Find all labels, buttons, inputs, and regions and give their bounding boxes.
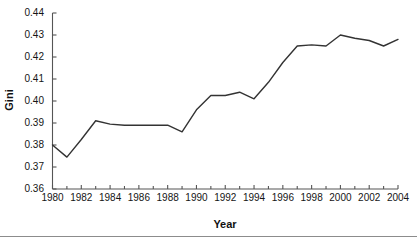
y-tick-label: 0.41 bbox=[14, 73, 44, 84]
y-tick-label: 0.39 bbox=[14, 117, 44, 128]
gini-series-line bbox=[53, 35, 399, 157]
y-tick-label: 0.44 bbox=[14, 7, 44, 18]
y-tick-label: 0.38 bbox=[14, 139, 44, 150]
y-tick-label: 0.37 bbox=[14, 161, 44, 172]
footer-divider bbox=[0, 236, 417, 237]
y-tick-label: 0.40 bbox=[14, 95, 44, 106]
x-tick-label: 2004 bbox=[381, 192, 415, 203]
x-axis-title: Year bbox=[52, 218, 398, 230]
plot-area bbox=[0, 0, 417, 242]
y-tick-label: 0.43 bbox=[14, 29, 44, 40]
gini-line-chart: Gini 0.360.370.380.390.400.410.420.430.4… bbox=[0, 0, 417, 242]
y-tick-label: 0.42 bbox=[14, 51, 44, 62]
